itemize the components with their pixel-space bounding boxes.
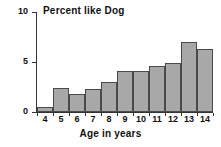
bar [165,63,181,112]
bar [117,71,133,112]
x-axis-tick-label: 14 [197,114,213,125]
x-axis-tickmark [213,113,214,116]
x-axis-tick-label: 13 [181,114,197,125]
bar [85,89,101,112]
x-axis-tick-label: 11 [149,114,165,125]
y-axis-tick: 0 [0,112,221,113]
x-axis-tick-label: 12 [165,114,181,125]
x-axis-tick-labels: 4567891011121314 [37,114,213,126]
bars-layer [37,12,213,112]
bar [53,88,69,112]
bar [149,66,165,112]
x-axis-tick-label: 4 [37,114,53,125]
bar [37,107,53,112]
bar [197,49,213,112]
y-axis-tick-label: 10 [6,7,28,16]
y-axis-tick-label: 5 [6,57,28,66]
bar [181,42,197,112]
x-axis-tick-label: 7 [85,114,101,125]
bar [69,94,85,112]
bar [133,71,149,112]
x-axis-tick-label: 10 [133,114,149,125]
x-axis-tick-label: 9 [117,114,133,125]
x-axis-tick-label: 8 [101,114,117,125]
bar [101,82,117,112]
bar-chart: Percent like Dog 0510 4567891011121314 A… [0,0,221,147]
x-axis-tick-label: 5 [53,114,69,125]
y-axis-tick-label: 0 [6,107,28,116]
x-axis-tick-label: 6 [69,114,85,125]
x-axis-title: Age in years [0,128,221,139]
